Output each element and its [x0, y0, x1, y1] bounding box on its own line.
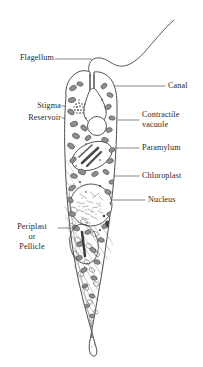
label-reservoir: Reservoir: [2, 113, 61, 123]
euglena-figure: Flagellum Stigma Reservoir Periplast or …: [0, 0, 203, 367]
label-chloroplast: Chloroplast: [142, 171, 181, 181]
label-contractile-vacuole-line2: vacuole: [142, 120, 168, 130]
contractile-vacuole-shape: [88, 117, 107, 136]
label-stigma: Stigma: [2, 101, 61, 111]
label-pellicle: Pellicle: [8, 242, 56, 252]
label-periplast-or: or: [8, 232, 56, 242]
flagellum-shape: [89, 20, 174, 76]
label-flagellum: Flagellum: [6, 53, 54, 63]
label-nucleus: Nucleus: [148, 195, 176, 205]
label-contractile-vacuole-line1: Contractile: [142, 110, 179, 120]
label-periplast: Periplast: [8, 222, 56, 232]
label-canal: Canal: [168, 81, 188, 91]
label-paramylum: Paramylum: [142, 143, 181, 153]
